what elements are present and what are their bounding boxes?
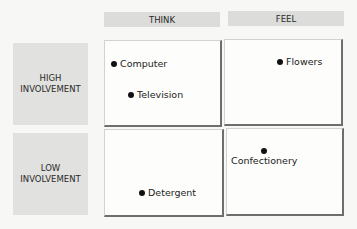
bullet-dot-icon: [128, 92, 134, 98]
item-detergent: Detergent: [139, 187, 196, 198]
quadrant-high-feel: Flowers: [224, 39, 343, 126]
quadrant-low-feel: Confectionery: [226, 128, 344, 216]
item-detergent-label: Detergent: [148, 187, 196, 198]
row-label-low-text: LOW INVOLVEMENT: [20, 163, 80, 185]
quadrant-high-think: Computer Television: [104, 40, 222, 127]
bullet-dot-icon: [139, 190, 145, 196]
item-flowers: Flowers: [277, 56, 322, 67]
item-computer: Computer: [111, 58, 167, 69]
item-flowers-label: Flowers: [286, 56, 322, 67]
item-confectionery: Confectionery: [231, 148, 297, 166]
item-computer-label: Computer: [120, 58, 167, 69]
bullet-dot-icon: [261, 148, 267, 154]
column-header-think-label: THINK: [149, 15, 175, 25]
bullet-dot-icon: [111, 61, 117, 67]
quadrant-low-think: Detergent: [104, 129, 224, 217]
item-television-label: Television: [137, 89, 183, 100]
row-label-high-text: HIGH INVOLVEMENT: [20, 73, 80, 95]
row-label-low-involvement: LOW INVOLVEMENT: [13, 133, 88, 215]
column-header-feel: FEEL: [228, 11, 344, 26]
column-header-feel-label: FEEL: [276, 14, 296, 24]
item-television: Television: [128, 89, 183, 100]
item-confectionery-label: Confectionery: [231, 155, 297, 166]
row-label-high-involvement: HIGH INVOLVEMENT: [13, 43, 88, 125]
bullet-dot-icon: [277, 59, 283, 65]
column-header-think: THINK: [104, 12, 220, 27]
